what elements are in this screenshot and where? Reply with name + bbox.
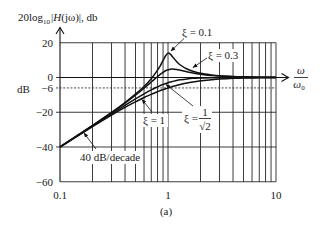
svg-text:40 dB/decade: 40 dB/decade — [80, 151, 140, 163]
annotation-arrow-icon — [193, 58, 207, 68]
x-axis-label: ω ω0 — [293, 64, 308, 92]
x-tick-label: 1 — [165, 189, 171, 201]
figure-caption: (a) — [160, 205, 173, 218]
annotation-slope: 40 dB/decade — [78, 133, 142, 164]
bode-magnitude-chart: 200−6−20−40−600.1110 20log10|H(jω)|, db … — [0, 0, 325, 228]
y-tick-label: −6 — [41, 82, 53, 94]
x-label-numerator: ω — [297, 64, 305, 76]
annotation-arrow-icon — [142, 100, 152, 113]
x-tick-label: 0.1 — [53, 189, 67, 201]
y-axis-title: 20log10|H(jω)|, db — [18, 11, 98, 26]
annotation-xi-0.3: ξ = 0.3 — [193, 49, 239, 68]
y-tick-label: −60 — [36, 176, 54, 188]
svg-text:ξ = 0.1: ξ = 0.1 — [182, 26, 212, 39]
svg-text:ξ = 0.3: ξ = 0.3 — [208, 49, 239, 62]
annotation-xi-1: ξ = 1 — [141, 100, 168, 128]
y-tick-label: −20 — [36, 106, 54, 118]
svg-text:ξ = 1: ξ = 1 — [143, 114, 165, 127]
x-tick-label: 10 — [271, 189, 283, 201]
annotation-arrow-icon — [171, 39, 184, 52]
y-tick-label: −40 — [36, 141, 54, 153]
annotation-xi-inv-sqrt2: ξ = 1 √2 — [166, 85, 212, 134]
annotation-xi-0.1: ξ = 0.1 — [171, 26, 214, 51]
y-unit-label: dB — [17, 83, 30, 95]
svg-text:1: 1 — [202, 106, 208, 118]
svg-text:ξ =: ξ = — [184, 112, 198, 125]
y-tick-label: 20 — [42, 37, 54, 49]
svg-text:√2: √2 — [199, 120, 211, 132]
x-label-denominator: ω0 — [293, 78, 305, 92]
